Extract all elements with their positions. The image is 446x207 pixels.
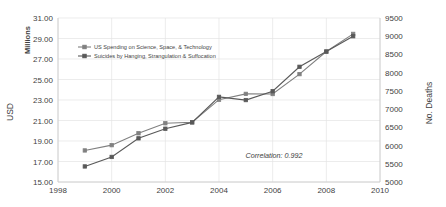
series-marker-0 — [164, 122, 167, 125]
series-marker-1 — [298, 65, 301, 68]
series-marker-1 — [190, 121, 193, 124]
legend-item[interactable]: US Spending on Science, Space, & Technol… — [78, 44, 212, 50]
left-axis-unit-label: Millions — [23, 26, 32, 54]
series-marker-0 — [244, 92, 247, 95]
right-tick-label: 8000 — [385, 69, 403, 78]
right-tick-label: 6500 — [385, 123, 403, 132]
left-tick-label: 21.00 — [33, 117, 54, 126]
series-marker-1 — [325, 50, 328, 53]
series-marker-0 — [137, 132, 140, 135]
left-tick-label: 23.00 — [33, 96, 54, 105]
series-marker-1 — [164, 127, 167, 130]
x-tick-label: 1998 — [49, 186, 67, 195]
series-marker-1 — [137, 137, 140, 140]
left-tick-label: 25.00 — [33, 76, 54, 85]
x-tick-label: 2006 — [264, 186, 282, 195]
x-tick-label: 2008 — [317, 186, 335, 195]
left-axis-tick-labels: 15.0017.0019.0021.0023.0025.0027.0029.00… — [33, 14, 54, 187]
left-tick-label: 27.00 — [33, 55, 54, 64]
x-tick-label: 2004 — [210, 186, 228, 195]
left-tick-label: 17.00 — [33, 158, 54, 167]
right-tick-label: 5500 — [385, 160, 403, 169]
series-marker-1 — [110, 155, 113, 158]
legend-label: US Spending on Science, Space, & Technol… — [94, 44, 212, 50]
right-tick-label: 6000 — [385, 142, 403, 151]
left-tick-label: 29.00 — [33, 35, 54, 44]
line-chart: 15.0017.0019.0021.0023.0025.0027.0029.00… — [0, 0, 446, 207]
left-tick-label: 19.00 — [33, 137, 54, 146]
x-axis-tick-labels: 1998200020022004200620082010 — [49, 186, 389, 195]
right-tick-label: 8500 — [385, 50, 403, 59]
x-tick-label: 2010 — [371, 186, 389, 195]
legend-swatch-marker — [83, 45, 86, 48]
right-tick-label: 9000 — [385, 32, 403, 41]
right-axis-tick-labels: 5000550060006500700075008000850090009500 — [385, 14, 403, 187]
series-marker-1 — [217, 95, 220, 98]
series-marker-1 — [351, 35, 354, 38]
series-marker-1 — [244, 98, 247, 101]
left-axis-title: USD — [5, 103, 15, 121]
correlation-annotation: Correlation: 0.992 — [245, 151, 302, 160]
annotation-layer: Correlation: 0.992 — [245, 151, 302, 160]
right-tick-label: 7500 — [385, 87, 403, 96]
series-marker-1 — [83, 165, 86, 168]
x-tick-label: 2002 — [156, 186, 174, 195]
legend-label: Suicides by Hanging, Strangulation & Suf… — [94, 53, 216, 59]
right-tick-label: 9500 — [385, 14, 403, 23]
right-tick-label: 7000 — [385, 105, 403, 114]
legend-swatch-marker — [83, 54, 86, 57]
series-marker-0 — [110, 143, 113, 146]
series-marker-0 — [298, 72, 301, 75]
series-marker-0 — [83, 149, 86, 152]
series-marker-1 — [271, 90, 274, 93]
legend-item[interactable]: Suicides by Hanging, Strangulation & Suf… — [78, 53, 216, 59]
x-tick-label: 2000 — [103, 186, 121, 195]
chart-container: 15.0017.0019.0021.0023.0025.0027.0029.00… — [0, 0, 446, 207]
left-tick-label: 31.00 — [33, 14, 54, 23]
right-axis-title: No. Deaths — [424, 82, 434, 125]
